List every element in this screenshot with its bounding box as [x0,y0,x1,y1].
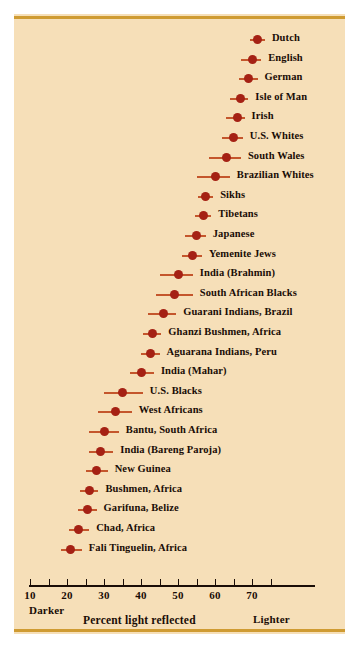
data-point-marker [170,290,179,299]
data-point-marker [118,388,127,397]
data-point-marker [244,74,253,83]
x-axis-tick [67,579,68,585]
data-point-marker [253,35,262,44]
x-axis-tick-label: 40 [135,589,146,601]
data-point-label: New Guinea [115,463,171,474]
data-point-label: Chad, Africa [96,522,155,533]
data-point-marker [146,349,155,358]
data-point-label: U.S. Blacks [150,385,202,396]
data-point-label: Japanese [213,228,255,239]
data-point-marker [211,172,220,181]
data-point-marker [74,525,83,534]
data-row: Guarani Indians, Brazil [0,307,359,321]
data-point-label: South African Blacks [200,287,297,298]
x-axis-tick-label: 50 [172,589,183,601]
data-point-marker [222,153,231,162]
data-point-label: Garifuna, Belize [104,502,179,513]
data-row: Chad, Africa [0,523,359,537]
data-point-marker [159,309,168,318]
data-point-label: Isle of Man [255,91,307,102]
data-point-label: Bantu, South Africa [126,424,217,435]
data-point-marker [96,447,105,456]
data-point-label: Sikhs [220,189,245,200]
data-row: South African Blacks [0,288,359,302]
data-row: German [0,72,359,86]
x-axis-tick-label: 20 [61,589,72,601]
x-axis-line [29,585,315,587]
data-row: Bushmen, Africa [0,484,359,498]
data-row: Ghanzi Bushmen, Africa [0,327,359,341]
data-row: New Guinea [0,464,359,478]
x-axis-tick [271,579,272,585]
x-axis-tick [141,579,142,585]
data-point-label: India (Brahmin) [200,267,275,278]
plot-area: DutchEnglishGermanIsle of ManIrishU.S. W… [0,0,359,648]
x-axis-tick [104,579,105,585]
data-point-label: German [265,71,303,82]
data-point-label: India (Bareng Paroja) [120,444,221,455]
x-axis-tick-label: 60 [209,589,220,601]
x-axis-tick [215,579,216,585]
x-axis-tick-label: 10 [24,589,35,601]
data-point-label: U.S. Whites [250,130,304,141]
data-point-marker [192,231,201,240]
data-row: U.S. Blacks [0,386,359,400]
data-row: Garifuna, Belize [0,503,359,517]
data-row: Sikhs [0,190,359,204]
data-point-label: Irish [252,110,274,121]
data-row: Fali Tinguelin, Africa [0,543,359,557]
data-point-marker [92,466,101,475]
data-point-label: Tibetans [218,208,258,219]
data-point-label: Aguarana Indians, Peru [167,346,277,357]
data-point-label: Fali Tinguelin, Africa [89,542,187,553]
data-row: India (Mahar) [0,366,359,380]
data-row: U.S. Whites [0,131,359,145]
data-point-marker [100,427,109,436]
x-axis-tick [252,579,253,585]
data-row: Yemenite Jews [0,249,359,263]
data-row: Aguarana Indians, Peru [0,347,359,361]
x-axis-tick [30,579,31,585]
data-row: Irish [0,111,359,125]
x-axis-tick [49,579,50,585]
data-point-label: Bushmen, Africa [105,483,182,494]
data-row: Japanese [0,229,359,243]
data-row: Bantu, South Africa [0,425,359,439]
data-point-marker [233,113,242,122]
chart-figure: DutchEnglishGermanIsle of ManIrishU.S. W… [0,0,359,648]
axis-note-darker: Darker [29,604,64,616]
x-axis-tick [178,579,179,585]
x-axis-tick [160,579,161,585]
data-point-marker [66,545,75,554]
data-row: West Africans [0,405,359,419]
data-row: English [0,53,359,67]
data-row: South Wales [0,151,359,165]
data-point-marker [199,211,208,220]
data-point-marker [229,133,238,142]
axis-note-lighter: Lighter [253,613,290,625]
x-axis-tick-label: 30 [98,589,109,601]
data-point-marker [83,505,92,514]
data-point-marker [188,251,197,260]
data-row: Dutch [0,33,359,47]
data-point-marker [201,192,210,201]
data-point-marker [174,270,183,279]
data-point-label: South Wales [248,150,305,161]
data-point-label: Dutch [272,32,300,43]
x-axis-tick-label: 70 [246,589,257,601]
data-point-marker [137,368,146,377]
data-point-label: Guarani Indians, Brazil [183,306,292,317]
data-row: India (Brahmin) [0,268,359,282]
data-point-marker [85,486,94,495]
data-point-label: India (Mahar) [161,365,227,376]
data-point-marker [248,55,257,64]
x-axis-tick [234,579,235,585]
x-axis-tick [123,579,124,585]
data-row: India (Bareng Paroja) [0,445,359,459]
data-point-label: Brazilian Whites [237,169,314,180]
x-axis-tick [86,579,87,585]
data-point-marker [236,94,245,103]
data-point-label: Yemenite Jews [209,248,276,259]
data-row: Isle of Man [0,92,359,106]
data-row: Brazilian Whites [0,170,359,184]
